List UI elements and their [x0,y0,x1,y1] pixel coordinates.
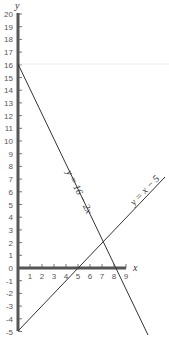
y-tick-label: 0 [9,264,14,273]
y-tick-label: 14 [4,86,13,95]
y-tick-label: 1 [9,251,14,260]
y-tick-label: 6 [9,188,14,197]
y-tick-label: 7 [9,175,14,184]
x-tick-label: 2 [40,272,45,281]
y-tick-label: -1 [6,277,14,286]
linear-equations-graph: 20191817161514131211109876543210-1-2-3-4… [0,0,169,340]
y-tick-label: 5 [9,201,14,210]
y-tick-label: 17 [4,48,13,57]
line1-label: y = 16 − 2x [64,167,95,216]
y-tick-label: 15 [4,74,13,83]
line2-label: y = x − 5 [127,173,162,208]
y-tick-label: 8 [9,162,14,171]
x-axis-label: x [132,262,138,273]
y-tick-label: 2 [9,239,14,248]
x-tick-label: 6 [88,272,93,281]
y-tick-label: 3 [9,226,14,235]
x-tick-label: 3 [52,272,57,281]
y-tick-label: 12 [4,112,13,121]
y-tick-label: 16 [4,61,13,70]
x-tick-label: 5 [76,272,81,281]
y-tick-label: -4 [6,315,14,324]
x-tick-label: 8 [112,272,117,281]
y-tick-label: 9 [9,150,14,159]
x-tick-label: 1 [28,272,33,281]
x-tick-label: 4 [64,272,69,281]
x-tick-label: 7 [100,272,105,281]
y-axis-label: y [14,0,20,11]
y-tick-label: 13 [4,99,13,108]
y-tick-label: -3 [6,302,14,311]
y-tick-label: 18 [4,35,13,44]
y-tick-label: 11 [5,124,14,133]
y-tick-label: -2 [6,289,14,298]
y-tick-label: 19 [4,23,13,32]
line-x-minus-5 [18,177,165,331]
y-tick-label: 4 [9,213,14,222]
x-tick-label: 9 [124,272,129,281]
y-tick-label: 20 [4,10,13,19]
y-tick-label: -5 [6,328,14,337]
y-tick-label: 10 [4,137,13,146]
